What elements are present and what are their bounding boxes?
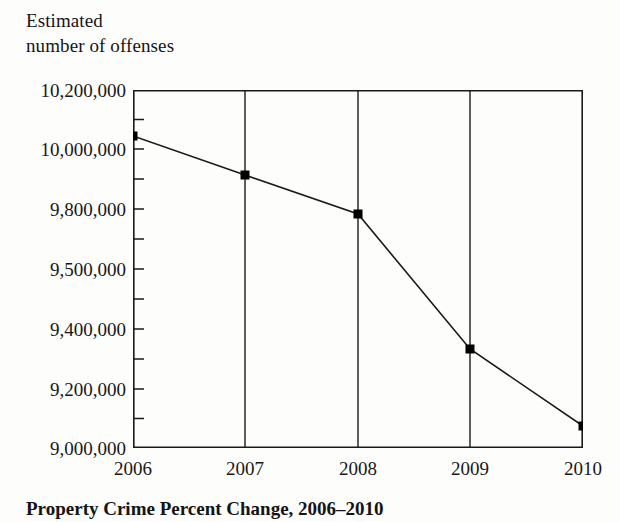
- figure-caption: Property Crime Percent Change, 2006–2010: [26, 497, 384, 520]
- figure-property-crime-line-chart: Estimated number of offenses 10,200,0001…: [0, 0, 620, 522]
- x-axis-tick-label: 2007: [200, 458, 290, 480]
- x-axis-tick-label: 2010: [538, 458, 620, 480]
- data-point-marker: [241, 171, 250, 180]
- y-axis-tick-label: 9,400,000: [8, 320, 126, 339]
- plot-area: [133, 90, 583, 448]
- gridline-group: [245, 90, 470, 448]
- data-point-marker: [579, 422, 584, 431]
- x-axis-tick-label: 2008: [313, 458, 403, 480]
- x-axis-tick-label: 2006: [88, 458, 178, 480]
- plot-svg: [133, 90, 583, 448]
- y-axis-tick-label: 10,200,000: [8, 81, 126, 100]
- y-axis-tick-label: 9,200,000: [8, 380, 126, 399]
- y-axis-tick-label: 10,000,000: [8, 140, 126, 159]
- x-axis-tick-label: 2009: [425, 458, 515, 480]
- y-axis-tick-label: 9,800,000: [8, 200, 126, 219]
- data-point-marker: [354, 210, 363, 219]
- y-axis-tick-label: 9,500,000: [8, 260, 126, 279]
- x-axis-tick-label-group: 20062007200820092010: [0, 458, 620, 488]
- y-axis-tick-mark-group: [134, 120, 144, 419]
- data-point-marker: [133, 132, 138, 141]
- data-point-marker: [466, 345, 475, 354]
- y-axis-tick-label-group: 10,200,00010,000,0009,800,0009,500,0009,…: [0, 0, 126, 522]
- y-axis-tick-label: 9,000,000: [8, 439, 126, 458]
